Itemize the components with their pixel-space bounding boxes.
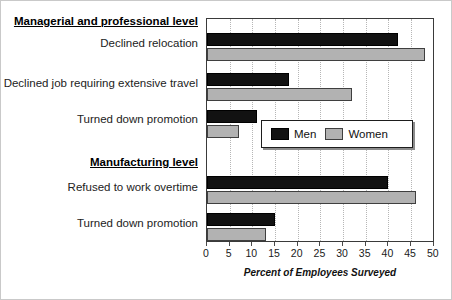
- tick-20: [297, 242, 298, 246]
- legend-label-men: Men: [294, 128, 316, 140]
- tick-label-50: 50: [427, 247, 439, 259]
- tick-label-40: 40: [382, 247, 394, 259]
- category-label-turned-down-promotion-1: Turned down promotion: [77, 113, 198, 125]
- bar-women-declined-travel: [207, 88, 352, 101]
- tick-label-15: 15: [268, 247, 280, 259]
- tick-40: [387, 242, 388, 246]
- bar-women-declined-relocation: [207, 48, 425, 61]
- tick-label-5: 5: [226, 247, 232, 259]
- bar-men-refused-overtime: [207, 176, 388, 189]
- tick-30: [342, 242, 343, 246]
- tick-label-0: 0: [203, 247, 209, 259]
- bar-men-declined-relocation: [207, 33, 398, 46]
- tick-label-45: 45: [404, 247, 416, 259]
- bar-men-turned-down-promotion-1: [207, 110, 257, 123]
- category-label-declined-travel: Declined job requiring extensive travel: [4, 77, 198, 89]
- category-label-column: Managerial and professional level Declin…: [1, 1, 205, 300]
- tick-label-25: 25: [314, 247, 326, 259]
- bar-men-declined-travel: [207, 73, 289, 86]
- category-label-refused-overtime: Refused to work overtime: [68, 181, 198, 193]
- tick-50: [433, 242, 434, 246]
- tick-0: [206, 242, 207, 246]
- legend-item-women: Women: [325, 128, 387, 140]
- tick-35: [365, 242, 366, 246]
- tick-45: [410, 242, 411, 246]
- bar-women-turned-down-promotion-2: [207, 228, 266, 241]
- tick-15: [274, 242, 275, 246]
- tick-label-20: 20: [291, 247, 303, 259]
- legend-swatch-men: [271, 128, 289, 140]
- tick-25: [319, 242, 320, 246]
- tick-5: [229, 242, 230, 246]
- legend-item-men: Men: [271, 128, 316, 140]
- tick-label-30: 30: [336, 247, 348, 259]
- legend-swatch-women: [325, 128, 343, 140]
- group-title-managerial: Managerial and professional level: [14, 15, 198, 27]
- bar-men-turned-down-promotion-2: [207, 213, 275, 226]
- tick-10: [251, 242, 252, 246]
- category-label-declined-relocation: Declined relocation: [100, 37, 198, 49]
- legend-label-women: Women: [348, 128, 387, 140]
- x-axis: 0 5 10 15 20 25 30 35 40 45 50: [206, 242, 434, 243]
- bar-women-refused-overtime: [207, 191, 416, 204]
- chart-legend: Men Women: [261, 120, 413, 148]
- tick-label-35: 35: [359, 247, 371, 259]
- bar-women-turned-down-promotion-1: [207, 125, 239, 138]
- tick-label-10: 10: [245, 247, 257, 259]
- chart-figure: Managerial and professional level Declin…: [0, 0, 452, 300]
- group-title-manufacturing: Manufacturing level: [90, 156, 198, 168]
- category-label-turned-down-promotion-2: Turned down promotion: [77, 217, 198, 229]
- x-axis-title: Percent of Employees Surveyed: [206, 267, 434, 278]
